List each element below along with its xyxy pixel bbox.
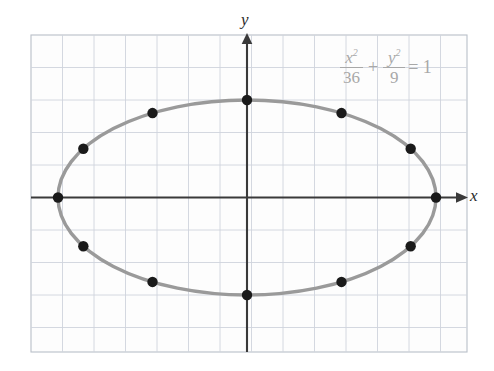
plotted-point [242,95,252,105]
plotted-point [242,290,252,300]
plotted-point [431,192,441,202]
plotted-point [336,277,346,287]
equation-second-denominator: 9 [387,68,402,86]
equation-first-numerator: x2 [342,48,361,67]
plotted-point [336,108,346,118]
equation-second-numerator: y2 [385,48,404,67]
plotted-point [53,192,63,202]
x-axis-label: x [470,186,478,206]
equation-first-exponent: 2 [353,47,358,58]
plotted-point [405,241,415,251]
plotted-point [147,277,157,287]
equation-plus-operator: + [366,57,380,78]
ellipse-equation: x2 36 + y2 9 = 1 [340,48,432,87]
plotted-point [405,144,415,154]
plotted-point [78,144,88,154]
plotted-point [78,241,88,251]
plotted-point [147,108,157,118]
equation-first-denominator: 36 [340,68,363,86]
equation-equals-one: = 1 [408,57,432,78]
equation-second-exponent: 2 [395,47,400,58]
y-axis-label: y [241,10,249,30]
equation-first-fraction: x2 36 [340,48,363,87]
equation-second-fraction: y2 9 [383,48,405,87]
